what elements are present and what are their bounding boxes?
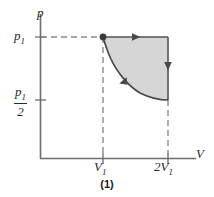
y-tick-label-p1: p1: [14, 29, 25, 46]
x-tick-label-v1-subscript: 1: [102, 167, 107, 177]
x-tick-label-v1: V1: [94, 160, 106, 177]
pv-diagram-figure: p V p1 p1 2 V1 2V1 (1): [0, 0, 214, 197]
fraction-numerator: p1: [14, 85, 27, 104]
y-tick-label-p1-half: p1 2: [14, 85, 27, 119]
fraction-denominator: 2: [14, 104, 27, 119]
x-axis-label: V: [196, 147, 204, 160]
x-tick-label-2v1: 2V1: [154, 160, 173, 177]
fraction: p1 2: [14, 85, 27, 119]
x-tick-label-2v1-subscript: 1: [168, 167, 173, 177]
x-tick-label-v1-main: V: [94, 159, 102, 174]
y-axis-label: p: [37, 6, 44, 19]
y-tick-label-p1-subscript: 1: [21, 36, 26, 46]
figure-caption: (1): [0, 178, 214, 190]
fraction-numerator-subscript: 1: [22, 92, 27, 102]
start-point-marker: [100, 34, 107, 41]
pv-diagram-canvas: [0, 0, 214, 197]
